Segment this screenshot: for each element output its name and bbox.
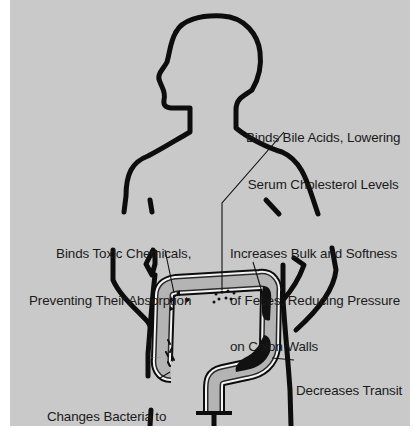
label-line: Binds Bile Acids, Lowering: [246, 130, 400, 146]
label-line: Preventing Their Absorption: [29, 293, 191, 309]
label-line: Increases Bulk and Softness: [230, 246, 400, 262]
label-line: of Feces, Reducing Pressure: [230, 293, 400, 309]
label-line: Changes Bacteria to: [25, 409, 166, 425]
label-line: Serum Cholesterol Levels: [246, 177, 400, 193]
label-line: Binds Toxic Chemicals,: [29, 246, 191, 262]
label-line: Decreases Transit: [296, 383, 402, 399]
label-toxic-chemicals: Binds Toxic Chemicals, Preventing Their …: [29, 215, 191, 339]
diagram-panel: Binds Bile Acids, Lowering Serum Cholest…: [10, 0, 410, 426]
label-transit-time: Decreases Transit Time of Feces: [296, 352, 402, 426]
label-bile-acids: Binds Bile Acids, Lowering Serum Cholest…: [246, 99, 400, 223]
label-bacteria: Changes Bacteria to “Non-carcinogenic” K…: [25, 378, 166, 426]
